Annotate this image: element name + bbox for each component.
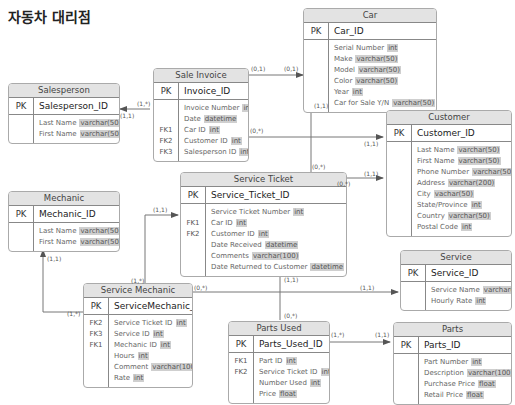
cardinality-label: (0,1) <box>251 65 265 72</box>
entity-parts[interactable]: Parts PKParts_ID Part NumberintDescripti… <box>393 322 512 405</box>
attribute-type: varchar(200) <box>448 179 495 187</box>
entity-mechanic[interactable]: Mechanic PKMechanic_ID Last Namevarchar(… <box>8 191 120 252</box>
primary-key: Invoice_ID <box>179 83 230 99</box>
attribute-name: Hours <box>114 352 135 360</box>
cardinality-label: (1,1) <box>314 102 328 109</box>
attribute-row: Hourly Rateint <box>431 296 512 307</box>
attribute-type: int <box>209 126 220 134</box>
attribute-row: Cityvachar(50) <box>417 189 512 200</box>
attribute-name: Service Ticket ID <box>114 319 173 327</box>
attribute-list: Part NumberintDescriptionvarchar(100)Pur… <box>419 354 512 404</box>
key-marker <box>181 207 205 218</box>
entity-salesperson[interactable]: Salesperson PKSalesperson_ID Last Nameva… <box>8 83 120 144</box>
entity-service-ticket[interactable]: Service Ticket PKService_Ticket_ID FK1FK… <box>180 172 347 277</box>
attribute-type: int <box>471 201 482 209</box>
cardinality-label: (1,*) <box>67 310 80 317</box>
key-marker <box>154 114 178 125</box>
key-column: FK1FK2 <box>181 204 206 276</box>
primary-key: Parts_Used_ID <box>254 336 323 352</box>
entity-title: Service Mechanic <box>84 284 192 298</box>
key-marker <box>9 129 33 140</box>
primary-key: Mechanic_ID <box>34 206 96 222</box>
attribute-row: Car for Sale Y/Nvarchar(50) <box>334 98 435 109</box>
key-marker <box>154 103 178 114</box>
attribute-type: int <box>387 44 398 52</box>
key-marker <box>181 240 205 251</box>
key-marker <box>304 87 328 98</box>
attribute-type: vachar(50) <box>434 190 474 198</box>
attribute-name: Phone Number <box>417 168 469 176</box>
attribute-type: int <box>293 208 304 216</box>
cardinality-label: (1,1) <box>364 170 378 177</box>
entity-customer[interactable]: Customer PKCustomer_ID Last Namevarchar(… <box>386 110 512 237</box>
attribute-type: varchar(50) <box>80 238 120 246</box>
attribute-row: Number Usedint <box>259 378 330 389</box>
attribute-list: Service Ticket NumberintCar IDintCustome… <box>206 204 344 276</box>
attribute-list: Last Namevarchar(50)First Namevarchar(50… <box>412 142 512 236</box>
attribute-row: Customer IDint <box>184 136 249 147</box>
attribute-row: Modelvarchar(50) <box>334 65 435 76</box>
key-column <box>401 282 426 310</box>
attribute-list: Part IDintService Ticket IDintNumber Use… <box>254 353 330 403</box>
pk-label: PK <box>181 187 206 203</box>
entity-title: Mechanic <box>9 192 119 206</box>
key-column <box>9 223 34 251</box>
key-marker <box>304 76 328 87</box>
attribute-row: Service Ticket IDint <box>114 318 193 329</box>
attribute-row: Phone Numbervarchar(50) <box>417 167 512 178</box>
attribute-name: Salesperson ID <box>184 148 236 156</box>
attribute-type: varchar(100) <box>151 363 193 371</box>
attribute-name: First Name <box>39 130 77 138</box>
attribute-row: Commentsvarchar(100) <box>211 251 344 262</box>
attribute-name: Postal Code <box>417 223 458 231</box>
key-marker <box>387 222 411 233</box>
key-marker <box>387 167 411 178</box>
key-marker <box>394 390 418 401</box>
entity-parts-used[interactable]: Parts Used PKParts_Used_ID FK1FK2Part ID… <box>228 321 330 404</box>
entity-sale-invoice[interactable]: Sale Invoice PKInvoice_ID FK1FK2FK3Invoi… <box>153 68 249 162</box>
attribute-type: varchar(50) <box>472 168 512 176</box>
attribute-type: varchar(100) <box>467 369 512 377</box>
attribute-type: int <box>239 148 249 156</box>
cardinality-label: (0,*) <box>284 312 297 319</box>
attribute-name: Number Used <box>259 379 307 387</box>
entity-car[interactable]: Car PKCar_ID Serial NumberintMakevarchar… <box>303 8 437 113</box>
attribute-name: Part ID <box>259 357 283 365</box>
attribute-name: State/Province <box>417 201 468 209</box>
key-marker <box>387 156 411 167</box>
attribute-name: Make <box>334 55 352 63</box>
attribute-type: varchar(100) <box>252 252 299 260</box>
key-marker <box>394 357 418 368</box>
key-marker <box>394 379 418 390</box>
cardinality-label: (0,*) <box>194 284 207 291</box>
key-marker <box>9 237 33 248</box>
entity-title: Service <box>401 251 511 265</box>
key-column: FK1FK2 <box>229 353 254 403</box>
attribute-name: Date Returned to Customer <box>211 263 307 271</box>
primary-key: Parts_ID <box>419 337 461 353</box>
pk-label: PK <box>394 337 419 353</box>
pk-label: PK <box>9 98 34 114</box>
attribute-name: Customer ID <box>184 137 228 145</box>
attribute-row: Makevarchar(50) <box>334 54 435 65</box>
attribute-type: int <box>461 223 472 231</box>
key-marker: FK1 <box>229 356 253 367</box>
key-column: FK2FK3FK1 <box>84 315 109 387</box>
entity-title: Customer <box>387 111 511 125</box>
attribute-type: int <box>242 104 249 112</box>
key-marker <box>401 296 425 307</box>
attribute-row: First Namevarchar(50) <box>39 237 120 248</box>
attribute-name: Service Name <box>431 286 480 294</box>
cardinality-label: (1,*) <box>331 331 344 338</box>
entity-service-mechanic[interactable]: Service Mechanic PKServiceMechanic_ID FK… <box>83 283 193 388</box>
attribute-row: Service Namevarchar(100) <box>431 285 512 296</box>
entity-service[interactable]: Service PKService_ID Service Namevarchar… <box>400 250 512 311</box>
attribute-name: Hourly Rate <box>431 297 472 305</box>
key-marker: FK2 <box>181 229 205 240</box>
attribute-type: int <box>231 137 242 145</box>
attribute-type: int <box>471 358 482 366</box>
attribute-row: First Namevarchar(50) <box>39 129 120 140</box>
key-marker <box>387 178 411 189</box>
cardinality-label: (1,1) <box>360 284 374 291</box>
cardinality-label: (1,1) <box>153 206 167 213</box>
